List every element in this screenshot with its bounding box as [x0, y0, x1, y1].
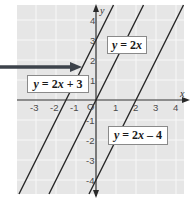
- origin-label: O: [87, 101, 94, 112]
- label-y-2x: y = 2x: [107, 36, 147, 54]
- x-tick-label: 2: [133, 102, 138, 113]
- y-tick-label: -3: [86, 155, 94, 166]
- y-tick-label: -2: [86, 135, 94, 146]
- x-axis-label: x: [179, 88, 185, 99]
- y-tick-label: 3: [90, 35, 95, 46]
- x-tick-label: 3: [153, 102, 158, 113]
- label-y-2x-minus-4: y = 2x – 4: [108, 126, 168, 145]
- x-tick-label: -2: [50, 102, 58, 113]
- x-tick-label: -3: [30, 102, 38, 113]
- y-tick-label: -4: [86, 175, 94, 186]
- y-tick-label: 4: [90, 15, 95, 26]
- y-axis-label: y: [99, 5, 105, 16]
- x-tick-label: 4: [173, 102, 178, 113]
- label-y-2x-plus-3: y = 2x + 3: [27, 75, 89, 93]
- y-tick-label: 2: [90, 55, 95, 66]
- y-tick-label: 1: [90, 75, 95, 86]
- x-tick-label: -1: [70, 102, 78, 113]
- x-tick-label: 1: [113, 102, 118, 113]
- coordinate-plane: -3-2-112344321-1-2-3-4 x y O: [0, 0, 196, 204]
- y-tick-label: -1: [86, 115, 94, 126]
